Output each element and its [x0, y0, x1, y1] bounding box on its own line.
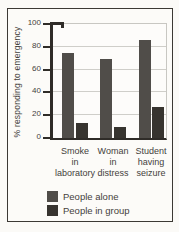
y-tick-label-60: 60	[32, 64, 41, 74]
bars-container	[53, 24, 166, 138]
scanned-textbook-figure: % responding to emergency 020406080100 S…	[0, 0, 179, 232]
y-tick-label-40: 40	[32, 86, 41, 96]
legend-swatch-people-in-group	[47, 205, 58, 216]
bar-people-in-group-2	[152, 107, 164, 138]
plot-area	[50, 23, 167, 140]
bar-people-alone-1	[100, 59, 112, 138]
y-axis: 020406080100	[8, 24, 50, 138]
legend-label-people-in-group: People in group	[63, 205, 130, 216]
bar-group-0	[62, 24, 88, 138]
bar-group-2	[139, 24, 165, 138]
legend-item-people-alone: People alone	[47, 191, 133, 202]
bar-people-alone-2	[139, 40, 151, 138]
category-label-2: Student having seizure	[128, 146, 174, 179]
y-tick-label-80: 80	[32, 41, 41, 51]
y-tick-mark-40	[43, 91, 50, 93]
bar-chart-figure: % responding to emergency 020406080100 S…	[7, 8, 173, 222]
legend-label-people-alone: People alone	[63, 191, 118, 202]
y-tick-mark-80	[43, 46, 50, 48]
y-tick-label-20: 20	[32, 109, 41, 119]
legend-swatch-people-alone	[47, 191, 58, 202]
bar-people-alone-0	[62, 53, 74, 139]
y-tick-label-100: 100	[28, 18, 41, 28]
y-tick-label-0: 0	[37, 132, 41, 142]
bar-people-in-group-1	[114, 127, 126, 138]
y-tick-mark-0	[43, 137, 50, 139]
x-category-labels: Smoke in laboratoryWoman in distressStud…	[52, 146, 169, 184]
bar-people-in-group-0	[76, 123, 88, 138]
y-tick-mark-60	[43, 69, 50, 71]
bar-group-1	[100, 24, 126, 138]
y-tick-mark-20	[43, 114, 50, 116]
legend: People alone People in group	[8, 191, 172, 216]
legend-item-people-in-group: People in group	[47, 205, 133, 216]
y-tick-mark-100	[43, 23, 50, 25]
